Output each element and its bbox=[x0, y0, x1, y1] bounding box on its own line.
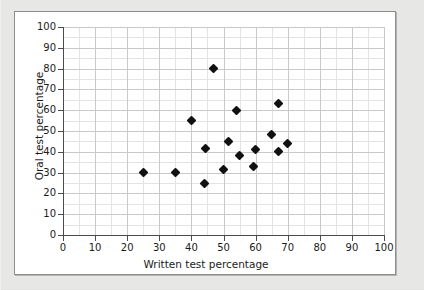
data-point-marker bbox=[201, 144, 211, 154]
grid-line-vertical bbox=[127, 27, 128, 235]
grid-line-vertical-minor bbox=[175, 27, 176, 235]
grid-line-horizontal-minor bbox=[63, 79, 384, 80]
x-axis-tick bbox=[352, 236, 353, 241]
grid-line-vertical bbox=[224, 27, 225, 235]
data-points-layer bbox=[63, 27, 384, 235]
data-point-marker bbox=[251, 145, 261, 155]
x-axis-tick-label: 40 bbox=[176, 243, 206, 253]
y-axis-tick-label: 0 bbox=[20, 230, 56, 240]
y-axis-tick bbox=[58, 89, 63, 90]
data-point-marker bbox=[283, 139, 293, 149]
plot-wrapper: Oral test percentage 0102030405060708090… bbox=[15, 12, 395, 274]
x-axis-tick-label: 30 bbox=[144, 243, 174, 253]
grid-line-horizontal-minor bbox=[63, 100, 384, 101]
data-point-marker bbox=[273, 147, 283, 157]
x-axis-tick-label: 100 bbox=[369, 243, 399, 253]
y-axis-line bbox=[63, 27, 64, 236]
data-point-marker bbox=[223, 136, 233, 146]
y-axis-tick bbox=[58, 110, 63, 111]
data-point-marker bbox=[219, 165, 229, 175]
grid-line-vertical bbox=[191, 27, 192, 235]
x-axis-tick bbox=[95, 236, 96, 241]
x-axis-tick bbox=[224, 236, 225, 241]
x-axis-tick bbox=[256, 236, 257, 241]
y-axis-tick-labels: 0102030405060708090100 bbox=[15, 12, 56, 276]
x-axis-tick-label: 70 bbox=[273, 243, 303, 253]
data-point-marker bbox=[186, 116, 196, 126]
grid-line-horizontal-minor bbox=[63, 183, 384, 184]
chart-figure: Oral test percentage 0102030405060708090… bbox=[14, 11, 396, 275]
grid-line-vertical bbox=[384, 27, 385, 235]
data-point-marker bbox=[249, 161, 259, 171]
grid-line-vertical bbox=[256, 27, 257, 235]
grid-line-vertical bbox=[95, 27, 96, 235]
x-axis-tick-label: 90 bbox=[337, 243, 367, 253]
grid-lines bbox=[63, 27, 384, 235]
grid-line-vertical-minor bbox=[143, 27, 144, 235]
grid-line-vertical-minor bbox=[111, 27, 112, 235]
grid-line-vertical bbox=[288, 27, 289, 235]
y-axis-tick-label: 30 bbox=[20, 168, 56, 178]
x-axis-tick-label: 0 bbox=[48, 243, 78, 253]
data-point-marker bbox=[231, 105, 241, 115]
grid-line-horizontal-minor bbox=[63, 141, 384, 142]
grid-line-vertical-minor bbox=[207, 27, 208, 235]
grid-line-vertical bbox=[159, 27, 160, 235]
x-axis-tick-label: 50 bbox=[209, 243, 239, 253]
y-axis-tick-label: 60 bbox=[20, 105, 56, 115]
grid-line-horizontal bbox=[63, 110, 384, 111]
y-axis-tick-label: 50 bbox=[20, 126, 56, 136]
grid-line-vertical-minor bbox=[368, 27, 369, 235]
y-axis-tick bbox=[58, 48, 63, 49]
grid-line-horizontal bbox=[63, 48, 384, 49]
x-axis-tick bbox=[63, 236, 64, 241]
data-point-marker bbox=[235, 151, 245, 161]
x-axis-tick bbox=[159, 236, 160, 241]
data-point-marker bbox=[209, 64, 219, 74]
data-point-marker bbox=[267, 129, 277, 139]
x-axis-tick-label: 80 bbox=[305, 243, 335, 253]
grid-line-horizontal-minor bbox=[63, 225, 384, 226]
y-axis-tick bbox=[58, 27, 63, 28]
grid-line-vertical-minor bbox=[240, 27, 241, 235]
grid-line-vertical bbox=[352, 27, 353, 235]
y-axis-tick bbox=[58, 69, 63, 70]
grid-line-horizontal-minor bbox=[63, 121, 384, 122]
y-axis-tick-label: 90 bbox=[20, 43, 56, 53]
grid-line-vertical-minor bbox=[304, 27, 305, 235]
x-axis-tick bbox=[320, 236, 321, 241]
x-axis-tick bbox=[384, 236, 385, 241]
grid-line-horizontal-minor bbox=[63, 162, 384, 163]
grid-line-horizontal bbox=[63, 27, 384, 28]
grid-line-horizontal bbox=[63, 152, 384, 153]
y-axis-tick-label: 70 bbox=[20, 84, 56, 94]
grid-line-horizontal bbox=[63, 69, 384, 70]
y-axis-tick-label: 100 bbox=[20, 22, 56, 32]
x-axis-tick bbox=[191, 236, 192, 241]
x-axis-title: Written test percentage bbox=[15, 258, 397, 270]
data-point-marker bbox=[273, 99, 283, 109]
grid-line-vertical-minor bbox=[79, 27, 80, 235]
y-axis-tick-label: 20 bbox=[20, 188, 56, 198]
data-point-marker bbox=[138, 168, 148, 178]
grid-line-horizontal bbox=[63, 89, 384, 90]
grid-line-vertical bbox=[320, 27, 321, 235]
x-axis-tick bbox=[288, 236, 289, 241]
y-axis-tick bbox=[58, 193, 63, 194]
y-axis-tick-label: 40 bbox=[20, 147, 56, 157]
grid-line-vertical-minor bbox=[336, 27, 337, 235]
plot-area bbox=[63, 27, 384, 235]
y-axis-tick-label: 10 bbox=[20, 209, 56, 219]
grid-line-horizontal bbox=[63, 131, 384, 132]
data-point-marker bbox=[199, 178, 209, 188]
y-axis-tick bbox=[58, 214, 63, 215]
grid-line-horizontal bbox=[63, 214, 384, 215]
grid-line-horizontal-minor bbox=[63, 37, 384, 38]
x-axis-tick bbox=[127, 236, 128, 241]
x-axis-tick-label: 60 bbox=[241, 243, 271, 253]
grid-line-horizontal bbox=[63, 193, 384, 194]
y-axis-tick-label: 80 bbox=[20, 64, 56, 74]
data-point-marker bbox=[170, 168, 180, 178]
y-axis-tick bbox=[58, 131, 63, 132]
y-axis-tick bbox=[58, 173, 63, 174]
